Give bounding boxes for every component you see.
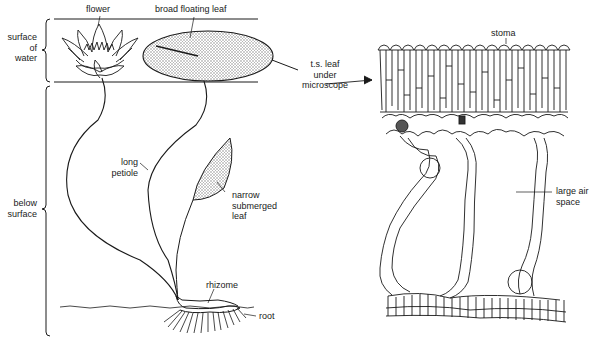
leaf-cross-section xyxy=(326,38,570,322)
stoma-label: stoma xyxy=(491,28,516,39)
ts-leaf-label: t.s. leaf under microscope xyxy=(300,59,350,91)
rhizome xyxy=(176,296,240,313)
below-brace xyxy=(42,86,50,336)
flower-label: flower xyxy=(86,4,110,15)
flower-stalk xyxy=(67,78,178,300)
broad-floating-leaf xyxy=(143,31,273,81)
narrow-submerged-leaf xyxy=(193,138,232,200)
below-surface-label: below surface xyxy=(3,198,37,219)
surface-of-water-label: surface of water xyxy=(3,32,37,64)
roots xyxy=(164,308,246,333)
broad-floating-leaf-label: broad floating leaf xyxy=(155,4,227,15)
long-petiole-label: long petiole xyxy=(102,157,138,178)
narrow-submerged-leaf-label: narrow submerged leaf xyxy=(232,190,277,222)
water-lily-diagram: flower broad floating leaf surface of wa… xyxy=(0,0,598,341)
root-label: root xyxy=(259,311,275,322)
flower-icon xyxy=(62,24,138,78)
surface-brace xyxy=(42,19,50,82)
rhizome-label: rhizome xyxy=(206,280,238,291)
diagram-drawing xyxy=(0,0,598,341)
submerged-leaf-stalk xyxy=(176,200,193,300)
large-air-space-label: large air space xyxy=(556,186,589,207)
